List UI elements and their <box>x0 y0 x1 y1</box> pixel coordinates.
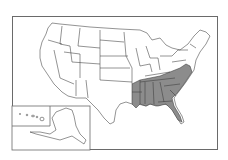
inset-frame <box>12 106 90 150</box>
us-map <box>0 0 228 160</box>
